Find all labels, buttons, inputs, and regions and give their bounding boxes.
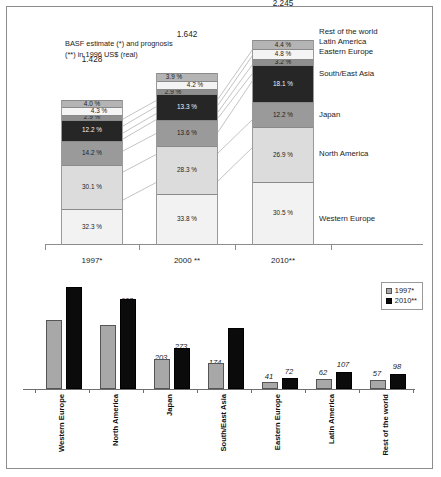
x-axis-label-2010: 2010** [252, 256, 314, 265]
bar-category-label: North America [111, 394, 120, 446]
bar-value-2010: 72 [276, 367, 302, 376]
segment-south-east-asia-2010: 18.1 % [253, 65, 313, 102]
segment-japan-1997: 14.2 % [62, 141, 122, 165]
segment-north-america-2000: 28.3 % [157, 146, 217, 194]
bar-1997 [316, 379, 332, 389]
segment-value: 4.3 % [91, 108, 107, 114]
bar-group-western-europe: 461 685 Western Europe [35, 282, 89, 390]
stack-total-2000: 1.642 [156, 30, 218, 39]
bar-2010 [282, 378, 298, 389]
segment-value: 12.2 % [273, 112, 293, 118]
bar-category-label: Rest of the world [381, 394, 390, 456]
bar-group-eastern-europe: 41 72 Eastern Europe [251, 282, 305, 390]
segment-western-europe-2010: 30.5 % [253, 182, 313, 245]
bar-2010 [336, 372, 352, 389]
bar-2010 [174, 348, 190, 389]
segment-value: 4.2 % [187, 82, 203, 88]
bar-category-label: Eastern Europe [273, 394, 282, 450]
bar-2010 [390, 374, 406, 389]
bar-category-label: South/East Asia [219, 394, 228, 452]
segment-value: 4.8 % [275, 51, 291, 57]
segment-value: 13.3 % [177, 104, 197, 110]
bar-category-label: Latin America [327, 394, 336, 444]
bar-value-2010: 98 [384, 362, 410, 371]
stack-bar-2010: 4.4 % 4.8 % 3.2 % 18.1 % 12.2 % 26.9 % [252, 40, 314, 245]
bar-category-label: Japan [165, 394, 174, 416]
bar-1997 [370, 380, 386, 389]
bar-1997 [262, 382, 278, 389]
segment-north-america-1997: 30.1 % [62, 165, 122, 209]
stack-bar-2000: 3.9 % 4.2 % 2.9 % 13.3 % 13.6 % 28.3 % [156, 73, 218, 245]
segment-rest-of-the-world-2000: 3.9 % [157, 73, 217, 81]
bar-value-2010: 107 [330, 360, 356, 369]
axis-tick-2 [139, 245, 140, 250]
chart-page: BASF estimate (*) and prognosis (**) in … [0, 0, 441, 477]
bar-1997 [100, 325, 116, 389]
bar-1997 [46, 320, 62, 389]
segment-eastern-europe-2010: 3.2 % [253, 59, 313, 66]
segment-japan-2000: 13.6 % [157, 120, 217, 146]
grouped-bar-chart: 1997* 2010** 461 685 Western Europe 430 [13, 282, 427, 464]
segment-latin-america-2000: 4.2 % [157, 81, 217, 89]
segment-value: 30.5 % [273, 210, 293, 216]
bar-value-1997: 62 [310, 368, 336, 377]
axis-tick-1 [45, 245, 46, 250]
stacked-percentage-chart: BASF estimate (*) and prognosis (**) in … [13, 13, 427, 275]
segment-value: 14.2 % [82, 150, 102, 156]
bar-1997 [154, 359, 170, 389]
segment-western-europe-1997: 32.3 % [62, 209, 122, 245]
bar-1997 [208, 363, 224, 389]
segment-rest-of-the-world-2010: 4.4 % [253, 40, 313, 49]
axis-tick-4 [331, 245, 332, 250]
x-axis-label-2000: 2000 ** [156, 256, 218, 265]
segment-western-europe-2000: 33.8 % [157, 194, 217, 245]
segment-value: 30.1 % [82, 184, 102, 190]
segment-value: 26.9 % [273, 152, 293, 158]
segment-value: 4.4 % [275, 42, 291, 48]
segment-south-east-asia-2000: 13.3 % [157, 94, 217, 120]
segment-latin-america-1997: 4.3 % [62, 107, 122, 115]
bar-group-latin-america: 62 107 Latin America [305, 282, 359, 390]
bar-group-rest-of-the-world: 57 98 Rest of the world [359, 282, 413, 390]
stack-total-1997: 1.428 [61, 55, 123, 64]
category-label-latin-america: Latin America [319, 38, 366, 46]
category-label-north-america: North America [319, 150, 368, 158]
segment-rest-of-the-world-1997: 4.0 % [62, 100, 122, 107]
category-label-japan: Japan [319, 111, 340, 119]
bar-category-label: Western Europe [57, 394, 66, 452]
stack-column-2000: 1.642 3.9 % 4.2 % 2.9 % 13.3 % 13.6 % [156, 30, 218, 245]
segment-value: 28.3 % [177, 167, 197, 173]
segment-latin-america-2010: 4.8 % [253, 49, 313, 59]
segment-value: 13.6 % [177, 130, 197, 136]
stack-total-2010: 2.245 [252, 0, 314, 8]
category-label-rest-of-the-world: Rest of the world [319, 28, 378, 36]
stack-column-2010: 2.245 4.4 % 4.8 % 3.2 % 18.1 % 12.2 % [252, 0, 314, 245]
x-axis-label-1997: 1997* [61, 256, 123, 265]
category-label-south-east-asia: South/East Asia [319, 70, 374, 78]
bar-2010 [228, 328, 244, 389]
bar-2010 [66, 287, 82, 389]
stack-bar-1997: 4.0 % 4.3 % 2.9 % 12.2 % 14.2 % 30.1 % [61, 100, 123, 245]
axis-tick-3 [235, 245, 236, 250]
bar-group-north-america: 430 603 North America [89, 282, 143, 390]
segment-value: 33.8 % [177, 216, 197, 222]
segment-value: 3.9 % [166, 74, 182, 80]
segment-value: 32.3 % [82, 224, 102, 230]
bottom-axis-tick [413, 389, 414, 393]
segment-japan-2010: 12.2 % [253, 102, 313, 127]
segment-value: 18.1 % [273, 81, 293, 87]
category-label-western-europe: Western Europe [319, 215, 375, 223]
bar-group-japan: 203 273 Japan [143, 282, 197, 390]
category-label-eastern-europe: Eastern Europe [319, 48, 373, 56]
segment-north-america-2010: 26.9 % [253, 127, 313, 182]
segment-south-east-asia-1997: 12.2 % [62, 120, 122, 141]
stack-column-1997: 1.428 4.0 % 4.3 % 2.9 % 12.2 % 14.2 % [61, 55, 123, 245]
bar-group-south-east-asia: 174 407 South/East Asia [197, 282, 251, 390]
segment-value: 12.2 % [82, 127, 102, 133]
bar-2010 [120, 299, 136, 389]
